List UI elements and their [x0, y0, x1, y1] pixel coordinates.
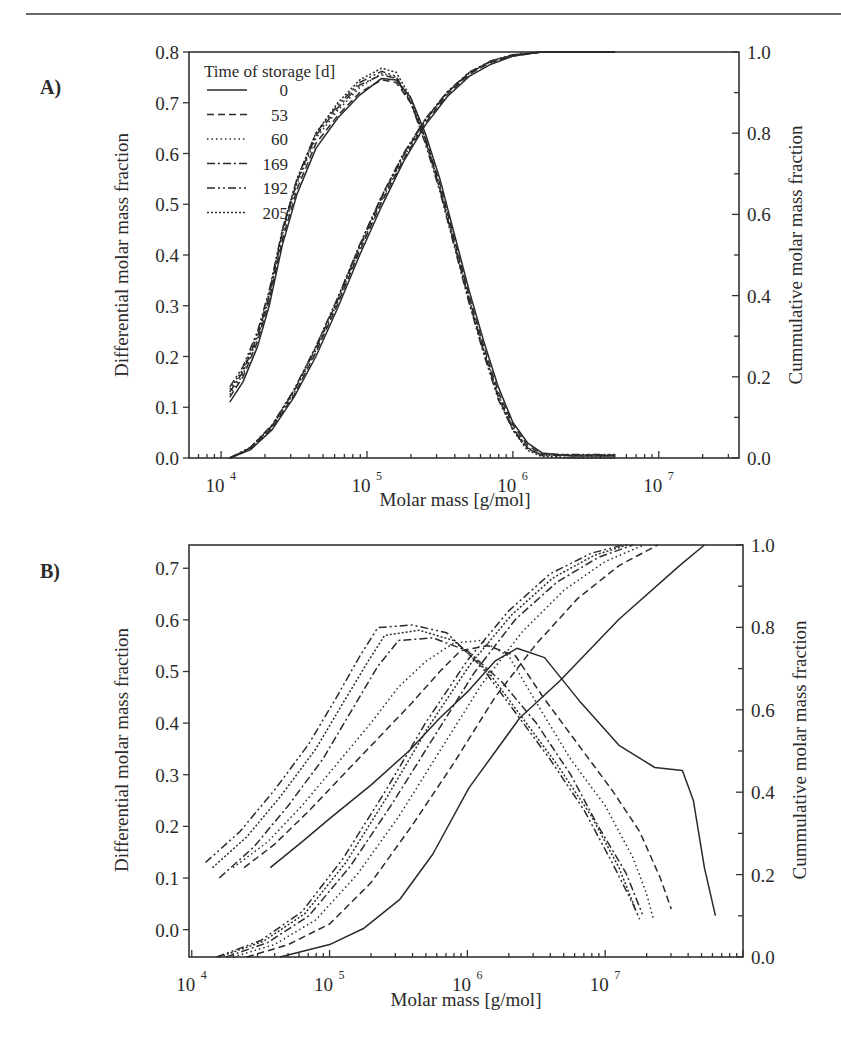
- x-tick-exponent: 6: [522, 469, 528, 483]
- y-tick-label: 0.3: [155, 296, 179, 317]
- legend-label: 53: [271, 106, 288, 125]
- legend: Time of storage [d] 05360169192205: [204, 62, 335, 223]
- y2-tick-label: 0.4: [747, 286, 771, 307]
- y-tick-label: 0.1: [155, 868, 179, 889]
- cumulative-curve-169d: [226, 545, 633, 957]
- panel-label-b: B): [40, 560, 60, 583]
- y2-tick-label: 0.0: [747, 448, 771, 469]
- y-axis-title-a: Differential molar mass fraction: [111, 133, 132, 377]
- y-tick-label: 0.0: [155, 920, 179, 941]
- y2-tick-label: 0.2: [747, 367, 771, 388]
- cumulative-curve-192d: [217, 545, 623, 957]
- y-tick-label: 0.7: [155, 558, 179, 579]
- legend-entries: 05360169192205: [207, 81, 288, 223]
- y-tick-label: 0.2: [155, 347, 179, 368]
- axis-ticks-b: 1041051061070.00.10.20.30.40.50.60.70.00…: [155, 535, 775, 995]
- x-tick-exponent: 7: [614, 968, 620, 982]
- panel-label-a: A): [40, 76, 61, 99]
- x-tick-exponent: 5: [339, 968, 345, 982]
- legend-label: 0: [280, 81, 289, 100]
- y-axis-title-b: Differential molar mass fraction: [111, 628, 132, 872]
- legend-label: 205: [263, 204, 289, 223]
- y-tick-label: 0.6: [155, 144, 179, 165]
- legend-label: 169: [263, 155, 289, 174]
- y-tick-label: 0.1: [155, 397, 179, 418]
- x-axis-title-a: Molar mass [g/mol]: [380, 489, 531, 510]
- y-tick-label: 0.2: [155, 816, 179, 837]
- y-tick-label: 0.5: [155, 661, 179, 682]
- y-tick-label: 0.4: [155, 245, 179, 266]
- y2-tick-label: 0.8: [751, 617, 775, 638]
- x-tick-exponent: 6: [476, 968, 482, 982]
- chart-a: A) 1041051061070.00.10.20.30.40.50.60.70…: [40, 42, 806, 510]
- legend-label: 60: [271, 130, 288, 149]
- differential-curve-192d: [206, 625, 640, 919]
- y-tick-label: 0.4: [155, 713, 179, 734]
- differential-curve-169d: [219, 638, 642, 914]
- y-tick-label: 0.0: [155, 448, 179, 469]
- differential-curve-60d: [233, 641, 653, 920]
- x-tick-label: 10: [176, 974, 195, 995]
- x-tick-label: 10: [351, 475, 370, 496]
- x-tick-exponent: 4: [201, 968, 207, 982]
- y2-tick-label: 0.8: [747, 123, 771, 144]
- chart-b: B) 1041051061070.00.10.20.30.40.50.60.70…: [40, 535, 810, 1010]
- x-tick-exponent: 7: [668, 469, 674, 483]
- y2-tick-label: 0.0: [751, 947, 775, 968]
- y2-axis-title-a: Cummulative molar mass fraction: [785, 125, 806, 385]
- x-tick-exponent: 4: [230, 469, 236, 483]
- x-axis-title-b: Molar mass [g/mol]: [391, 989, 542, 1010]
- x-tick-exponent: 5: [376, 469, 382, 483]
- x-tick-label: 10: [643, 475, 662, 496]
- cumulative-curve-0d: [280, 545, 704, 957]
- y-tick-label: 0.3: [155, 765, 179, 786]
- curves-b: [206, 545, 716, 957]
- figure: A) 1041051061070.00.10.20.30.40.50.60.70…: [0, 0, 841, 1060]
- cumulative-curve-60d: [233, 545, 644, 957]
- y-tick-label: 0.5: [155, 194, 179, 215]
- legend-label: 192: [263, 179, 289, 198]
- plot-frame-b: [189, 545, 743, 957]
- y-tick-label: 0.8: [155, 42, 179, 63]
- y2-tick-label: 0.2: [751, 865, 775, 886]
- y2-tick-label: 0.4: [751, 782, 775, 803]
- y-tick-label: 0.6: [155, 610, 179, 631]
- x-tick-label: 10: [314, 974, 333, 995]
- cumulative-curve-53d: [247, 545, 658, 957]
- y2-axis-title-b: Cummulative molar mass fraction: [789, 620, 810, 880]
- y2-tick-label: 0.6: [747, 204, 771, 225]
- y2-tick-label: 0.6: [751, 700, 775, 721]
- x-tick-label: 10: [590, 974, 609, 995]
- y-tick-label: 0.7: [155, 93, 179, 114]
- differential-curve-53d: [244, 646, 671, 909]
- legend-title: Time of storage [d]: [204, 62, 335, 81]
- y2-tick-label: 1.0: [747, 42, 771, 63]
- y2-tick-label: 1.0: [751, 535, 775, 556]
- x-tick-label: 10: [206, 475, 225, 496]
